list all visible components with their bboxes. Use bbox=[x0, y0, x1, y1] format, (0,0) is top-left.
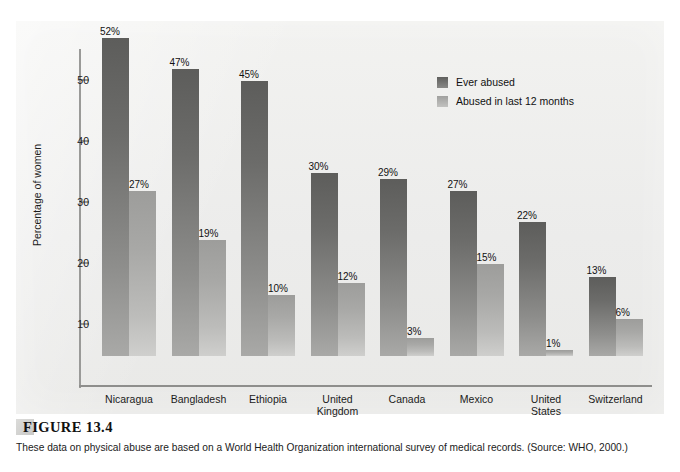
bar-abused-last-12-months[interactable]: 19% bbox=[199, 240, 226, 356]
bar-abused-last-12-months[interactable]: 10% bbox=[268, 295, 295, 356]
figure-panel: Percentage of women 1020304050 52%27%Nic… bbox=[16, 21, 664, 414]
x-axis-category-line: Switzerland bbox=[568, 393, 664, 405]
bar-value-label: 15% bbox=[477, 252, 517, 263]
bar-group: 30%12% bbox=[311, 21, 365, 385]
chart-legend: Ever abusedAbused in last 12 months bbox=[437, 76, 574, 114]
legend-swatch-icon bbox=[437, 77, 448, 88]
bar-value-label: 47% bbox=[170, 57, 210, 68]
bar-abused-last-12-months[interactable]: 27% bbox=[129, 191, 156, 356]
bar-value-label: 22% bbox=[517, 210, 557, 221]
bar-ever-abused[interactable]: 29% bbox=[380, 179, 407, 356]
bar-ever-abused[interactable]: 22% bbox=[519, 222, 546, 356]
bar-ever-abused[interactable]: 27% bbox=[450, 191, 477, 356]
bar-value-label: 27% bbox=[129, 179, 169, 190]
bar-value-label: 10% bbox=[268, 283, 308, 294]
bar-group: 47%19% bbox=[172, 21, 226, 385]
x-axis-category-label: Switzerland bbox=[568, 393, 664, 405]
bar-value-label: 29% bbox=[378, 167, 418, 178]
bar-group: 13%6% bbox=[589, 21, 643, 385]
bar-group: 45%10% bbox=[241, 21, 295, 385]
x-axis-category-line: Kingdom bbox=[290, 405, 386, 417]
bar-value-label: 12% bbox=[338, 271, 378, 282]
bar-value-label: 52% bbox=[100, 26, 140, 37]
legend-swatch-icon bbox=[437, 96, 448, 107]
bar-value-label: 30% bbox=[309, 161, 349, 172]
figure-number: FIGURE 13.4 bbox=[23, 419, 664, 436]
legend-item[interactable]: Abused in last 12 months bbox=[437, 95, 574, 107]
legend-label: Abused in last 12 months bbox=[456, 95, 574, 107]
bar-ever-abused[interactable]: 13% bbox=[589, 277, 616, 356]
bar-value-label: 3% bbox=[407, 326, 447, 337]
bar-group: 52%27% bbox=[102, 21, 156, 385]
legend-item[interactable]: Ever abused bbox=[437, 76, 574, 88]
bar-ever-abused[interactable]: 47% bbox=[172, 69, 199, 356]
bar-ever-abused[interactable]: 30% bbox=[311, 173, 338, 356]
bar-abused-last-12-months[interactable]: 15% bbox=[477, 264, 504, 356]
figure-caption-block: FIGURE 13.4 These data on physical abuse… bbox=[16, 419, 664, 454]
bar-chart-plot: Percentage of women 1020304050 52%27%Nic… bbox=[16, 21, 664, 414]
bar-value-label: 13% bbox=[587, 265, 627, 276]
bar-value-label: 6% bbox=[616, 307, 656, 318]
x-axis-category-line: States bbox=[498, 405, 594, 417]
page-running-head bbox=[0, 0, 680, 12]
bar-abused-last-12-months[interactable]: 1% bbox=[546, 350, 573, 356]
bar-value-label: 1% bbox=[546, 338, 586, 349]
figure-caption-text: These data on physical abuse are based o… bbox=[16, 441, 664, 454]
bar-abused-last-12-months[interactable]: 12% bbox=[338, 283, 365, 356]
bar-value-label: 45% bbox=[239, 69, 279, 80]
bar-group: 29%3% bbox=[380, 21, 434, 385]
bar-abused-last-12-months[interactable]: 3% bbox=[407, 338, 434, 356]
legend-label: Ever abused bbox=[456, 76, 515, 88]
bar-ever-abused[interactable]: 45% bbox=[241, 81, 268, 356]
bar-abused-last-12-months[interactable]: 6% bbox=[616, 319, 643, 356]
bar-value-label: 27% bbox=[448, 179, 488, 190]
bar-ever-abused[interactable]: 52% bbox=[102, 38, 129, 356]
bar-value-label: 19% bbox=[199, 228, 239, 239]
